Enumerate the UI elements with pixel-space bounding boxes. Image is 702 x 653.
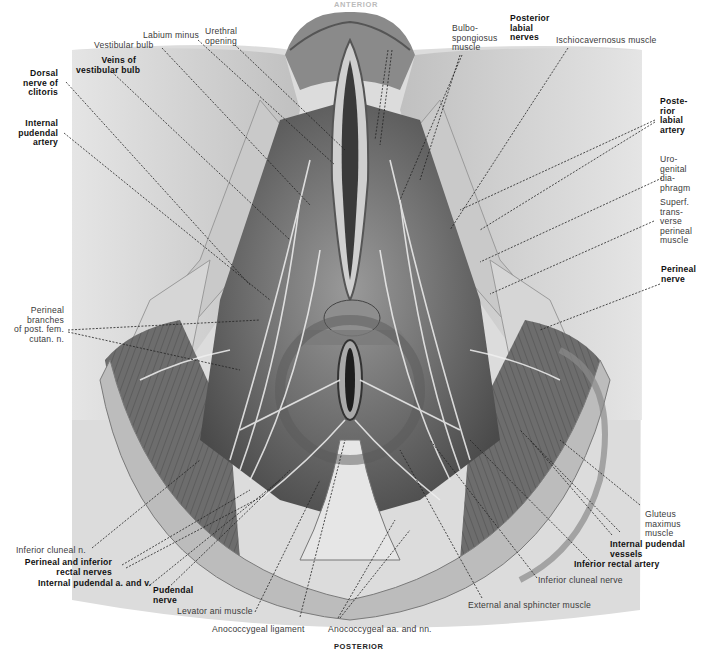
label-perineal-nerve: Perineal nerve [661,265,696,284]
label-internal-pudendal-vessels: Internal pudendal vessels [610,540,685,559]
label-inferior-rectal-artery: Inferior rectal artery [574,560,660,570]
label-levator-ani-muscle: Levator ani muscle [177,607,253,617]
label-dorsal-nerve-of-clitoris: Dorsal nerve of clitoris [12,69,58,98]
label-perineal-and-inferior-rectal-nerves: Perineal and inferior rectal nerves [20,558,112,577]
label-urogenital-diaphragm: Uro- genital dia- phragm [660,155,690,193]
label-internal-pudendal-a-and-v: Internal pudendal a. and v. [38,579,151,589]
label-internal-pudendal-artery: Internal pudendal artery [12,119,58,148]
label-posterior-labial-artery: Poste- rior labial artery [660,97,687,135]
label-superf-transverse-perineal-muscle: Superf. trans- verse perineal muscle [660,198,692,246]
anatomy-figure: ANTERIOR POSTERIOR Labium minus Urethral… [0,0,702,653]
label-bulbospongiosus-muscle: Bulbo- spongiosus muscle [452,24,497,53]
label-perineal-branches-post-fem-cutan-n: Perineal branches of post. fem. cutan. n… [0,306,64,344]
label-ischiocavernosus-muscle: Ischiocavernosus muscle [556,36,657,46]
label-urethral-opening: Urethral opening [205,27,237,46]
orientation-posterior: POSTERIOR [334,642,384,651]
label-vestibular-bulb: Vestibular bulb [94,41,153,51]
orientation-anterior: ANTERIOR [334,0,378,9]
label-external-anal-sphincter-muscle: External anal sphincter muscle [468,601,591,611]
label-posterior-labial-nerves: Posterior labial nerves [510,14,550,43]
label-inferior-cluneal-n: Inferior cluneal n. [16,546,86,556]
label-anococcygeal-aa-and-nn: Anococcygeal aa. and nn. [328,625,432,635]
label-gluteus-maximus-muscle: Gluteus maximus muscle [645,510,681,539]
label-veins-of-vestibular-bulb: Veins of vestibular bulb [76,56,136,75]
label-pudendal-nerve: Pudendal nerve [153,586,193,605]
label-inferior-cluneal-nerve: Inferior cluneal nerve [538,576,623,586]
perineum-illustration [0,0,702,653]
label-anococcygeal-ligament: Anococcygeal ligament [212,625,305,635]
